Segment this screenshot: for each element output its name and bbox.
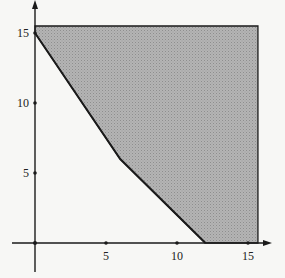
x-tick-label: 5 [103,249,109,263]
x-tick-dot [246,241,250,245]
y-tick-dot [33,171,37,175]
y-tick-label: 5 [23,166,29,180]
x-tick-label: 10 [171,249,183,263]
y-tick-dot [33,31,37,35]
origin-dot [33,241,37,245]
y-tick-label: 15 [17,26,29,40]
y-tick-dot [33,101,37,105]
x-tick-dot [175,241,179,245]
x-axis-arrow-icon [263,240,272,246]
y-axis-arrow-icon [32,0,38,9]
chart: 5101551015 [0,0,285,278]
x-tick-label: 15 [242,249,254,263]
feasible-region [35,26,258,243]
shaded-region [35,26,258,243]
y-tick-label: 10 [17,96,29,110]
x-tick-dot [104,241,108,245]
